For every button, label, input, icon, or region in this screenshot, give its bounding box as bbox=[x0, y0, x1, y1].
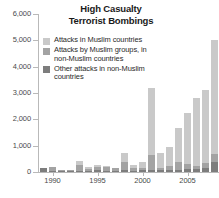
legend-item: Attacks in Muslim countries bbox=[43, 36, 163, 45]
bar-segment bbox=[112, 171, 119, 172]
y-axis-tick-label: 3,000 bbox=[1, 88, 31, 97]
bar-group bbox=[49, 167, 56, 172]
y-axis-labels: 01,0002,0003,0004,0005,0006,000 bbox=[0, 0, 31, 198]
bar-group bbox=[202, 90, 209, 172]
x-axis-tick-label: 1995 bbox=[89, 176, 105, 185]
bar-segment bbox=[175, 128, 182, 163]
bar-segment bbox=[202, 168, 209, 172]
bar-group bbox=[94, 165, 101, 172]
bar-segment bbox=[67, 171, 74, 172]
y-axis-tick-label: 2,000 bbox=[1, 114, 31, 123]
bar-group bbox=[103, 166, 110, 172]
bar-group bbox=[121, 153, 128, 172]
x-axis-labels: 1990199520002005 bbox=[38, 176, 219, 190]
bar-group bbox=[112, 168, 119, 172]
bar-segment bbox=[193, 98, 200, 165]
bar-segment bbox=[49, 171, 56, 172]
y-axis-tick-label: 5,000 bbox=[1, 35, 31, 44]
bar-segment bbox=[121, 170, 128, 172]
bar-segment bbox=[211, 40, 218, 153]
legend-item-label: Attacks by Muslim groups, in non-Muslim … bbox=[54, 46, 163, 63]
bar-segment bbox=[148, 155, 155, 170]
bar-group bbox=[76, 161, 83, 172]
bar-group bbox=[175, 128, 182, 172]
bar-segment bbox=[193, 169, 200, 172]
x-axis-tick-label: 2005 bbox=[179, 176, 195, 185]
bar-group bbox=[148, 88, 155, 172]
bar-segment bbox=[157, 153, 164, 168]
bar-group bbox=[67, 170, 74, 172]
bar-segment bbox=[175, 170, 182, 172]
bar-group bbox=[58, 170, 65, 172]
y-axis-tick-label: 1,000 bbox=[1, 141, 31, 150]
x-axis-tick-label: 2000 bbox=[134, 176, 150, 185]
bar-segment bbox=[148, 170, 155, 172]
legend-swatch-other-nonmuslim bbox=[43, 66, 50, 73]
bar-segment bbox=[130, 171, 137, 172]
bar-segment bbox=[184, 113, 191, 165]
bar-segment bbox=[85, 171, 92, 172]
bar-segment bbox=[157, 170, 164, 172]
bar-segment bbox=[139, 170, 146, 172]
bar-segment bbox=[202, 90, 209, 163]
bar-group bbox=[157, 153, 164, 172]
legend-item-label: Attacks in Muslim countries bbox=[54, 36, 142, 45]
bar-segment bbox=[184, 169, 191, 172]
legend-swatch-muslim-countries bbox=[43, 38, 50, 45]
legend-item: Attacks by Muslim groups, in non-Muslim … bbox=[43, 46, 163, 63]
chart-figure: High Casualty Terrorist Bombings 01,0002… bbox=[0, 0, 219, 198]
chart-title-line-1: High Casualty bbox=[80, 3, 141, 14]
y-axis-tick-label: 4,000 bbox=[1, 62, 31, 71]
bar-segment bbox=[76, 171, 83, 172]
legend-swatch-muslim-groups-nonmuslim bbox=[43, 48, 50, 55]
bar-segment bbox=[58, 171, 65, 172]
bar-segment bbox=[103, 171, 110, 172]
bar-segment bbox=[175, 162, 182, 170]
bar-group bbox=[85, 167, 92, 172]
bar-group bbox=[166, 147, 173, 172]
bar-segment bbox=[121, 153, 128, 162]
bar-segment bbox=[166, 147, 173, 166]
bar-segment bbox=[211, 162, 218, 172]
bar-segment bbox=[40, 168, 47, 172]
bar-group bbox=[184, 113, 191, 173]
bar-group bbox=[130, 165, 137, 172]
chart-legend: Attacks in Muslim countriesAttacks by Mu… bbox=[43, 36, 163, 83]
bar-segment bbox=[166, 170, 173, 172]
bar-group bbox=[193, 98, 200, 172]
bar-segment bbox=[121, 162, 128, 171]
bar-segment bbox=[148, 88, 155, 155]
x-axis-tick-label: 1990 bbox=[44, 176, 60, 185]
y-axis-tick-label: 6,000 bbox=[1, 9, 31, 18]
x-axis-line bbox=[38, 172, 219, 173]
y-axis-tick-label: 0 bbox=[1, 167, 31, 176]
legend-item: Other attacks in non-Muslim countries bbox=[43, 65, 163, 82]
bar-group bbox=[211, 40, 218, 172]
bar-segment bbox=[94, 170, 101, 172]
legend-item-label: Other attacks in non-Muslim countries bbox=[54, 65, 163, 82]
bar-group bbox=[139, 162, 146, 172]
bar-segment bbox=[211, 154, 218, 163]
bar-group bbox=[40, 168, 47, 172]
